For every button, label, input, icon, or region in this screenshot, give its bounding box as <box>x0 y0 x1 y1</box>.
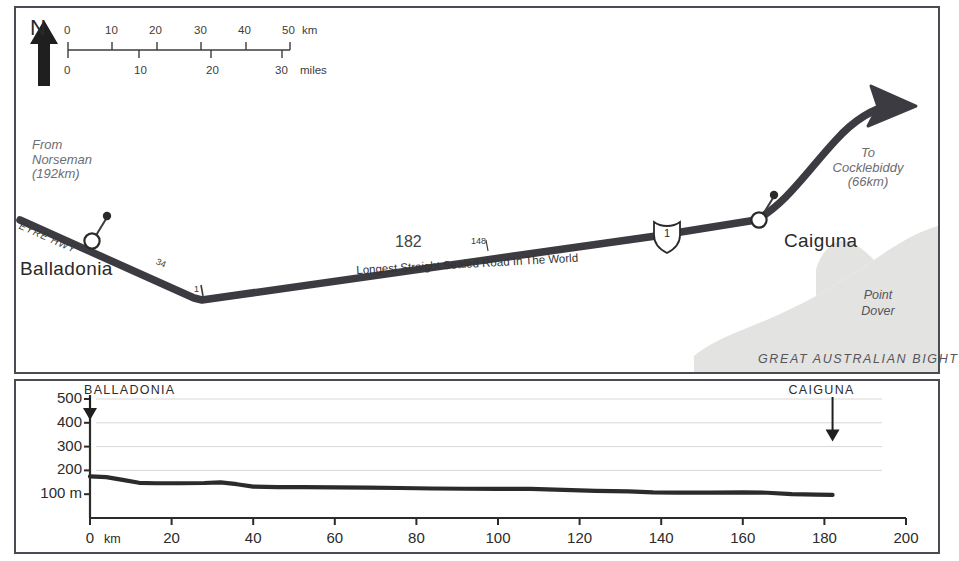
road-tick-bend <box>201 285 203 296</box>
y-tick-label-400: 400 <box>18 413 82 430</box>
scale-bar <box>68 42 290 58</box>
highway-shield-number: 1 <box>664 227 670 239</box>
x-axis-unit-label: km <box>104 532 121 546</box>
map-panel: N 0 10 20 30 40 50 km 0 10 20 30 miles F… <box>14 6 940 374</box>
great-australian-bight-label: GREAT AUSTRALIAN BIGHT <box>758 352 959 366</box>
town-label-balladonia: Balladonia <box>20 258 113 279</box>
distance-marker-1: 1 <box>194 284 199 294</box>
scale-km-tick-10: 10 <box>105 24 118 36</box>
scale-km-tick-20: 20 <box>149 24 162 36</box>
from-norseman-line3: (192km) <box>32 167 92 182</box>
chart-gridlines <box>96 399 882 470</box>
scale-miles-tick-20: 20 <box>206 64 219 76</box>
scale-km-tick-40: 40 <box>238 24 251 36</box>
town-label-caiguna: Caiguna <box>784 230 858 251</box>
x-tick-label-80: 80 <box>391 529 441 546</box>
distance-marker-182: 182 <box>395 233 422 251</box>
chart-annotations <box>83 397 840 441</box>
profile-label-caiguna: CAIGUNA <box>789 383 855 397</box>
scale-miles-tick-0: 0 <box>64 64 70 76</box>
eyre-highway-road-line <box>20 220 756 300</box>
x-tick-label-160: 160 <box>718 529 768 546</box>
x-tick-label-60: 60 <box>310 529 360 546</box>
x-tick-label-140: 140 <box>636 529 686 546</box>
scale-km-tick-0: 0 <box>64 24 70 36</box>
y-tick-label-100: 100 m <box>18 484 82 501</box>
x-tick-label-180: 180 <box>799 529 849 546</box>
scale-km-tick-30: 30 <box>194 24 207 36</box>
from-norseman-line1: From <box>32 138 92 153</box>
profile-label-balladonia: BALLADONIA <box>84 383 176 397</box>
point-dover-line1: Point <box>861 288 894 304</box>
scale-km-tick-50: 50 <box>282 24 295 36</box>
to-cocklebiddy-line3: (66km) <box>833 175 904 190</box>
x-tick-label-100: 100 <box>473 529 523 546</box>
x-tick-label-20: 20 <box>147 529 197 546</box>
elevation-profile-chart <box>16 381 938 552</box>
chart-axes <box>84 395 906 525</box>
road-tick-148 <box>486 240 488 251</box>
elevation-line <box>90 476 833 495</box>
scale-km-unit: km <box>302 24 317 36</box>
point-dover-label: Point Dover <box>861 288 894 319</box>
scale-miles-tick-30: 30 <box>275 64 288 76</box>
y-tick-label-300: 300 <box>18 437 82 454</box>
x-tick-label-40: 40 <box>228 529 278 546</box>
map-graphics <box>16 8 938 372</box>
scale-miles-tick-10: 10 <box>134 64 147 76</box>
from-norseman-line2: Norseman <box>32 153 92 168</box>
x-tick-label-120: 120 <box>555 529 605 546</box>
x-tick-label-200: 200 <box>881 529 931 546</box>
town-marker-balladonia <box>84 212 111 249</box>
to-cocklebiddy-line2: Cocklebiddy <box>833 161 904 176</box>
north-label: N <box>30 16 46 41</box>
distance-marker-148: 148 <box>471 236 486 246</box>
y-tick-label-500: 500 <box>18 389 82 406</box>
scale-miles-unit: miles <box>300 64 327 76</box>
y-tick-label-200: 200 <box>18 460 82 477</box>
to-cocklebiddy-line1: To <box>833 146 904 161</box>
point-dover-line2: Dover <box>861 304 894 320</box>
from-norseman-note: From Norseman (192km) <box>32 138 92 182</box>
elevation-profile-panel: 100 m 200 300 400 500 0 20 40 60 80 100 … <box>14 379 940 554</box>
to-cocklebiddy-note: To Cocklebiddy (66km) <box>833 146 904 190</box>
